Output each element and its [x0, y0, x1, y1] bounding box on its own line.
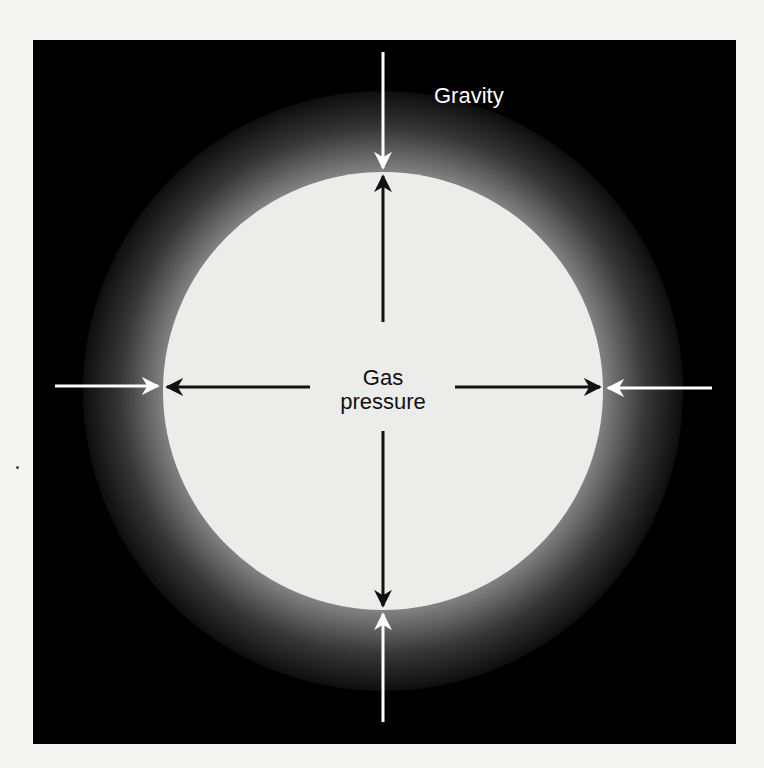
gas-pressure-label: Gas pressure — [333, 366, 433, 414]
gravity-label: Gravity — [434, 84, 504, 108]
gas-pressure-label-line1: Gas — [333, 366, 433, 390]
gas-pressure-label-line2: pressure — [333, 390, 433, 414]
